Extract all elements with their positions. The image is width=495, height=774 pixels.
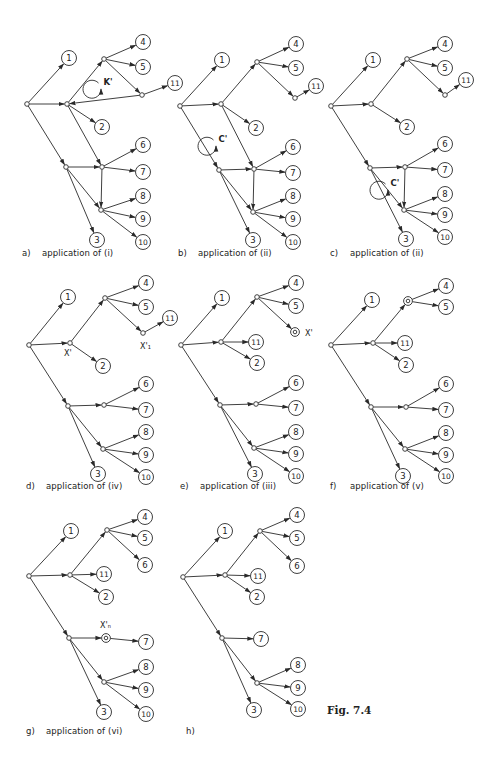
edge-h-r-A — [185, 575, 222, 577]
edge-h-r-B — [184, 579, 220, 636]
node-label: 1 — [65, 292, 70, 302]
edge-c-A-2 — [373, 105, 400, 122]
caption-b: b)application of (ii) — [178, 248, 272, 258]
node-e-8: 8 — [289, 425, 304, 440]
node-e-5: 5 — [289, 299, 304, 314]
edge-d-r-1 — [30, 303, 63, 343]
node-label: 4 — [294, 510, 299, 520]
edge-e-A-U — [222, 299, 255, 340]
edge-b-U-5 — [259, 62, 288, 66]
node-h-6: 6 — [290, 559, 305, 574]
node-label: 2 — [100, 361, 105, 371]
node-h-7: 7 — [254, 632, 269, 647]
node-f-1: 1 — [365, 293, 380, 308]
node-label: 3 — [94, 235, 99, 245]
node-label: 4 — [142, 512, 147, 522]
node-label: 7 — [143, 637, 148, 647]
caption-text: application of (ii) — [350, 248, 424, 258]
edge-g-L-10 — [106, 683, 140, 709]
caption-tag: a) — [22, 248, 42, 258]
node-label: 8 — [143, 427, 148, 437]
edge-d-B-L — [69, 408, 101, 447]
edge-h-A-11 — [227, 575, 250, 576]
node-c-9: 9 — [438, 208, 453, 223]
node-label: 1 — [68, 526, 73, 536]
junction-e-M — [254, 402, 259, 407]
node-c-1: 1 — [366, 53, 381, 68]
vertex-label-g-0: X'ₙ — [100, 621, 111, 630]
junction-a-B — [64, 165, 69, 170]
cycle-label: K' — [103, 77, 112, 87]
node-label: 1 — [369, 295, 374, 305]
junction-a-K — [140, 93, 145, 98]
node-label: 7 — [293, 403, 298, 413]
junction-c-M — [403, 165, 408, 170]
edge-e-r-B — [182, 347, 218, 403]
junction-c-A — [369, 102, 374, 107]
node-label: 1 — [219, 293, 224, 303]
node-b-8: 8 — [286, 189, 301, 204]
node-label: 3 — [95, 469, 100, 479]
node-label: 11 — [99, 570, 109, 579]
node-b-9: 9 — [286, 212, 301, 227]
node-label: 7 — [143, 405, 148, 415]
edge-e-r-1 — [183, 304, 217, 343]
node-label: 1 — [370, 55, 375, 65]
caption-tag: d) — [26, 481, 46, 491]
node-label: 9 — [143, 450, 148, 460]
edge-e-B-L — [221, 407, 252, 446]
node-label: 10 — [138, 238, 148, 247]
terminal-node-g — [102, 634, 111, 643]
node-label: 7 — [290, 168, 295, 178]
node-label: 3 — [251, 705, 256, 715]
edge-b-M-L — [253, 171, 254, 209]
junction-b-M — [252, 167, 257, 172]
node-label: 8 — [443, 428, 448, 438]
node-label: 6 — [140, 140, 145, 150]
edge-f-B-L — [372, 409, 403, 447]
node-label: 11 — [311, 82, 321, 91]
node-c-3: 3 — [399, 232, 414, 247]
node-d-4: 4 — [139, 276, 154, 291]
junction-g-B — [67, 636, 72, 641]
edge-b-U-K — [259, 64, 293, 96]
junction-h-A — [223, 573, 228, 578]
node-g-4: 4 — [138, 510, 153, 525]
junction-d-K — [141, 331, 146, 336]
node-label: 11 — [461, 76, 471, 85]
junction-c-B — [368, 166, 373, 171]
node-h-5: 5 — [290, 531, 305, 546]
node-label: 7 — [443, 405, 448, 415]
edge-g-A-11 — [72, 574, 96, 575]
node-b-7: 7 — [286, 166, 301, 181]
node-g-8: 8 — [139, 660, 154, 675]
node-e-6: 6 — [289, 376, 304, 391]
edge-a-K-A — [70, 95, 140, 103]
edge-f-A-2 — [375, 344, 399, 360]
edge-e-M-6 — [258, 387, 289, 403]
edge-g-r-1 — [31, 537, 66, 574]
junction-g-A — [68, 573, 73, 578]
node-label: 10 — [291, 472, 301, 481]
node-label: 5 — [143, 302, 148, 312]
edge-c-M-6 — [407, 148, 438, 166]
node-label: 3 — [250, 235, 255, 245]
node-e-11: 11 — [249, 335, 264, 350]
edge-h-U-6 — [262, 533, 292, 561]
node-d-10: 10 — [139, 470, 154, 485]
node-g-3: 3 — [97, 705, 112, 720]
node-d-11: 11 — [163, 311, 178, 326]
caption-text: application of (ii) — [198, 248, 272, 258]
node-h-9: 9 — [291, 681, 306, 696]
node-a-6: 6 — [136, 138, 151, 153]
node-h-1: 1 — [218, 524, 233, 539]
caption-tag: b) — [178, 248, 198, 258]
junction-b-U — [255, 60, 260, 65]
node-a-9: 9 — [136, 212, 151, 227]
node-label: 6 — [143, 379, 148, 389]
cycle-arrow-icon — [198, 137, 216, 155]
edge-b-M-7 — [256, 169, 285, 172]
edge-g-r-B — [30, 578, 67, 636]
edge-d-A-2 — [72, 344, 97, 361]
edge-h-L-10 — [259, 684, 291, 704]
